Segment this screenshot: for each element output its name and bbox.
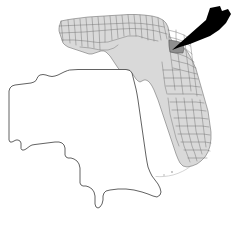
florida-keys-group	[156, 166, 191, 177]
keys-dot	[163, 174, 165, 176]
keys-arc	[156, 166, 191, 177]
enlarged-county-outline	[9, 70, 161, 209]
arrow-pointer-icon	[172, 6, 231, 50]
map-svg-canvas	[0, 0, 235, 225]
county-locator-map	[0, 0, 235, 225]
keys-dot	[171, 171, 173, 173]
